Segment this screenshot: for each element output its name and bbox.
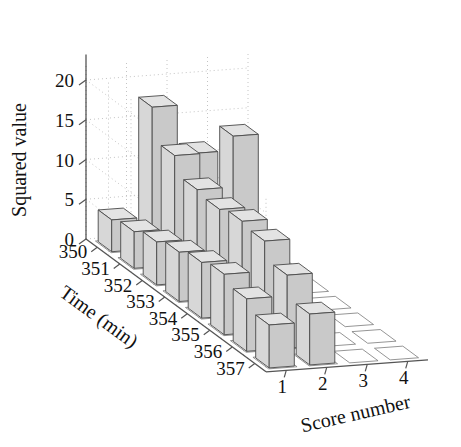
z-axis-title: Squared value — [8, 103, 31, 217]
y-tick — [181, 314, 187, 319]
y-tick — [226, 347, 232, 352]
floor-cell — [374, 346, 418, 360]
bar-left-face — [256, 315, 270, 368]
figure-3d-bar-chart: 051015203503513523533543553563571234Squa… — [0, 0, 461, 447]
y-tick — [204, 330, 210, 335]
bar-front-face — [269, 323, 294, 368]
bar-left-face — [233, 289, 247, 351]
z-tick-label: 20 — [55, 70, 74, 91]
z-tick — [79, 120, 86, 125]
y-tick — [159, 297, 165, 302]
y-tick — [249, 364, 255, 369]
bar-left-face — [296, 304, 310, 365]
bar-front-face — [310, 312, 335, 365]
bar-left-face — [143, 232, 157, 285]
bar-left-face — [188, 253, 202, 319]
floor-cell — [334, 349, 378, 363]
y-tick — [114, 264, 120, 269]
z-tick-label: 15 — [55, 110, 74, 131]
x-axis-title: Score number — [299, 390, 413, 437]
floor-cell — [352, 330, 396, 344]
z-tick-label: 10 — [55, 150, 74, 171]
z-tick — [79, 199, 86, 204]
z-tick-label: 5 — [65, 189, 75, 210]
floor-cell — [329, 313, 373, 327]
bar-3d — [296, 302, 335, 365]
y-tick — [91, 247, 97, 252]
bar-left-face — [211, 264, 225, 334]
y-tick-label: 357 — [216, 358, 245, 379]
bar-left-face — [166, 242, 180, 301]
y-tick — [136, 281, 142, 286]
x-tick-label: 3 — [359, 370, 369, 391]
z-tick — [79, 80, 86, 85]
plot-canvas: 051015203503513523533543553563571234Squa… — [0, 0, 461, 447]
x-tick-label: 1 — [278, 376, 288, 397]
z-tick — [79, 160, 86, 165]
bar-3d — [256, 313, 295, 368]
x-tick-label: 2 — [318, 373, 328, 394]
x-tick-label: 4 — [399, 367, 409, 388]
